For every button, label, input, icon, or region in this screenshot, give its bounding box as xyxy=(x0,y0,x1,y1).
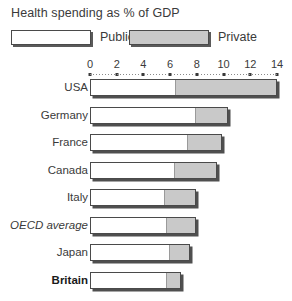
x-axis-dash xyxy=(261,74,262,75)
stacked-bar xyxy=(90,244,190,261)
bar-segment-private xyxy=(175,80,277,95)
bar-row: France xyxy=(0,132,292,160)
x-axis-dash xyxy=(249,74,250,75)
x-axis-dash xyxy=(156,74,157,75)
x-axis-dash xyxy=(168,74,169,75)
bar-row: Germany xyxy=(0,105,292,133)
x-axis-dash xyxy=(102,74,103,75)
x-axis-tick-label: 2 xyxy=(114,58,120,70)
x-axis-dash xyxy=(264,74,265,75)
x-axis-dash xyxy=(150,74,151,75)
bar-row-label: Britain xyxy=(52,274,88,286)
bar-segment-private xyxy=(166,218,194,233)
chart-legend: Public Private xyxy=(11,28,283,48)
x-axis-dash xyxy=(132,74,133,75)
x-axis-dash xyxy=(105,74,106,75)
x-axis-dash xyxy=(99,74,100,75)
legend-swatch-public-icon xyxy=(11,30,91,45)
x-axis-dash xyxy=(207,74,208,75)
x-axis-dash xyxy=(219,74,220,75)
x-axis-dash xyxy=(147,74,148,75)
bar-row: Japan xyxy=(0,242,292,270)
bar-row-label: Italy xyxy=(67,191,88,203)
x-axis-dash xyxy=(210,74,211,75)
stacked-bar xyxy=(90,134,222,151)
legend-label-private: Private xyxy=(218,30,257,44)
bar-row-label: Canada xyxy=(48,164,88,176)
bar-row: OECD average xyxy=(0,215,292,243)
x-axis-dash xyxy=(120,74,121,75)
x-axis-tick-label: 4 xyxy=(140,58,146,70)
x-axis-dash xyxy=(222,74,223,75)
x-axis-dash xyxy=(93,74,94,75)
x-axis-dash xyxy=(201,74,202,75)
chart-title: Health spending as % of GDP xyxy=(11,6,180,20)
bar-row-label: OECD average xyxy=(10,219,88,231)
x-axis-dash xyxy=(177,74,178,75)
x-axis-dash xyxy=(153,74,154,75)
x-axis-dash xyxy=(255,74,256,75)
bar-row-label: Japan xyxy=(57,246,88,258)
x-axis-dash xyxy=(195,74,196,75)
bar-row: Canada xyxy=(0,160,292,188)
x-axis-dash xyxy=(162,74,163,75)
x-axis-dash xyxy=(159,74,160,75)
x-axis-dash xyxy=(216,74,217,75)
x-axis-tick-label: 6 xyxy=(167,58,173,70)
x-axis-dash xyxy=(111,74,112,75)
x-axis-dash xyxy=(183,74,184,75)
x-axis-dash xyxy=(141,74,142,75)
legend-swatch-private-icon xyxy=(129,30,209,45)
bar-rows: USAGermanyFranceCanadaItalyOECD averageJ… xyxy=(0,77,292,297)
x-axis-tick-label: 10 xyxy=(217,58,229,70)
x-axis-dash xyxy=(240,74,241,75)
bar-segment-private xyxy=(195,108,227,123)
x-axis-dash xyxy=(246,74,247,75)
stacked-bar xyxy=(90,79,277,96)
x-axis-dash xyxy=(189,74,190,75)
x-axis-dash xyxy=(270,74,271,75)
x-axis-dash xyxy=(171,74,172,75)
bar-segment-private xyxy=(166,273,179,288)
bar-segment-private xyxy=(164,190,195,205)
x-axis-dash xyxy=(231,74,232,75)
x-axis-dash xyxy=(213,74,214,75)
x-axis-dash xyxy=(267,74,268,75)
x-axis-dash xyxy=(144,74,145,75)
legend-item-private: Private xyxy=(129,28,257,46)
bar-row-label: USA xyxy=(64,81,88,93)
x-axis-dash xyxy=(273,74,274,75)
x-axis-dash xyxy=(126,74,127,75)
x-axis-tick-label: 14 xyxy=(271,58,283,70)
x-axis-tick-label: 0 xyxy=(87,58,93,70)
bar-segment-private xyxy=(169,245,189,260)
bar-row: Britain xyxy=(0,270,292,298)
stacked-bar xyxy=(90,272,181,289)
x-axis-dash xyxy=(204,74,205,75)
x-axis-line xyxy=(90,73,277,76)
x-axis-dash xyxy=(192,74,193,75)
x-axis-dash xyxy=(258,74,259,75)
x-axis-dash xyxy=(198,74,199,75)
chart-container: Health spending as % of GDP Public Priva… xyxy=(0,0,292,301)
bar-row-label: Germany xyxy=(41,109,88,121)
x-axis-dash xyxy=(180,74,181,75)
stacked-bar xyxy=(90,107,228,124)
stacked-bar xyxy=(90,217,196,234)
bar-segment-private xyxy=(187,135,222,150)
x-axis-dash xyxy=(276,74,277,75)
x-axis-dash xyxy=(174,74,175,75)
x-axis-dash xyxy=(117,74,118,75)
stacked-bar xyxy=(90,162,217,179)
x-axis-dash xyxy=(237,74,238,75)
bar-row: Italy xyxy=(0,187,292,215)
x-axis-dash xyxy=(252,74,253,75)
x-axis-dash xyxy=(234,74,235,75)
x-axis-dash xyxy=(135,74,136,75)
bar-segment-private xyxy=(174,163,215,178)
bar-row: USA xyxy=(0,77,292,105)
x-axis-dash xyxy=(228,74,229,75)
x-axis-dash xyxy=(123,74,124,75)
x-axis-dash xyxy=(90,74,91,75)
x-axis-dash xyxy=(165,74,166,75)
